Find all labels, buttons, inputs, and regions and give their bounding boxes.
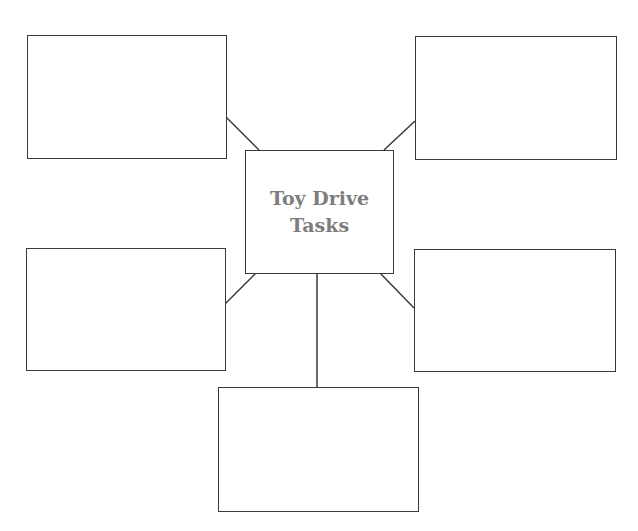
- box-middle-left[interactable]: [26, 248, 226, 371]
- box-top-right[interactable]: [415, 36, 617, 160]
- center-title-line2: Tasks: [270, 212, 369, 239]
- center-title-line1: Toy Drive: [270, 185, 369, 212]
- connector-middle-left: [225, 273, 256, 304]
- connector-top-right: [384, 121, 415, 150]
- box-top-left[interactable]: [27, 35, 227, 159]
- box-middle-right[interactable]: [414, 249, 616, 372]
- center-box: Toy Drive Tasks: [245, 150, 394, 274]
- box-bottom[interactable]: [218, 387, 419, 512]
- center-title: Toy Drive Tasks: [270, 185, 369, 239]
- connector-top-left: [226, 117, 259, 150]
- connector-middle-right: [380, 273, 414, 308]
